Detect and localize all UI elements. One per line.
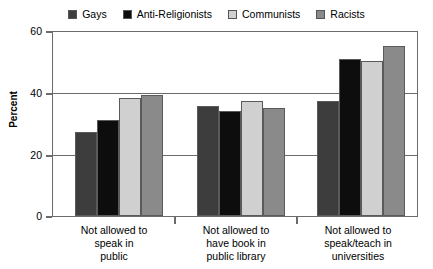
y-tick-label-60: 60 (0, 26, 42, 37)
x-label-group1-line1: Not allowed to (182, 224, 290, 237)
y-axis: 60 40 20 0 Percent (0, 0, 52, 269)
legend-swatch-communists (228, 10, 237, 19)
x-label-group2-line3: universities (304, 250, 412, 263)
legend-label-anti-religionists: Anti-Religionists (137, 9, 212, 20)
x-label-group1: Not allowed to have book in public libra… (182, 224, 290, 263)
bar-group1-gays[interactable] (197, 106, 219, 216)
bar-group2-racists[interactable] (383, 46, 405, 217)
x-axis-separator-2 (296, 217, 298, 224)
legend-swatch-gays (68, 10, 77, 19)
legend-swatch-anti-religionists (123, 10, 132, 19)
x-label-group2: Not allowed to speak/teach in universiti… (304, 224, 412, 263)
legend-item-communists[interactable]: Communists (228, 9, 300, 20)
plot-area (52, 31, 418, 217)
x-label-group0-line3: public (60, 250, 168, 263)
bar-group0-racists[interactable] (141, 95, 163, 216)
legend-item-anti-religionists[interactable]: Anti-Religionists (123, 9, 212, 20)
legend-item-gays[interactable]: Gays (68, 9, 107, 20)
legend-label-communists: Communists (242, 9, 300, 20)
bar-group0-communists[interactable] (119, 98, 141, 216)
legend-swatch-racists (316, 10, 325, 19)
y-tick-label-20: 20 (0, 150, 42, 161)
x-label-group0-line1: Not allowed to (60, 224, 168, 237)
bar-group0-anti-religionists[interactable] (97, 120, 119, 216)
bar-group1-anti-religionists[interactable] (219, 111, 241, 216)
legend-label-gays: Gays (82, 9, 107, 20)
x-label-group0: Not allowed to speak in public (60, 224, 168, 263)
x-label-group2-line2: speak/teach in (304, 237, 412, 250)
bar-group1-communists[interactable] (241, 101, 263, 216)
x-label-group1-line3: public library (182, 250, 290, 263)
x-axis-labels: Not allowed to speak in public Not allow… (52, 224, 418, 269)
bar-group0-gays[interactable] (75, 132, 97, 216)
bar-group2-anti-religionists[interactable] (339, 59, 361, 216)
legend-label-racists: Racists (330, 9, 364, 20)
x-axis-separator-1 (174, 217, 176, 224)
y-tick-label-0: 0 (0, 211, 42, 222)
chart-legend: Gays Anti-Religionists Communists Racist… (0, 6, 433, 22)
x-label-group1-line2: have book in (182, 237, 290, 250)
bar-group2-gays[interactable] (317, 101, 339, 216)
x-label-group0-line2: speak in (60, 237, 168, 250)
bar-group1-racists[interactable] (263, 108, 285, 217)
y-axis-title: Percent (8, 75, 19, 145)
bar-group2-communists[interactable] (361, 61, 383, 216)
legend-item-racists[interactable]: Racists (316, 9, 364, 20)
x-label-group2-line1: Not allowed to (304, 224, 412, 237)
bar-chart: Gays Anti-Religionists Communists Racist… (0, 0, 433, 269)
y-tick-label-40: 40 (0, 88, 42, 99)
